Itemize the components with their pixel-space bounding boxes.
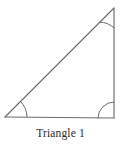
bottom-left-angle-arc [20, 101, 27, 117]
bottom-right-angle-arc [98, 102, 114, 118]
triangle-side-hypotenuse [5, 8, 114, 117]
top-right-angle-arc [100, 22, 114, 28]
figure-caption: Triangle 1 [0, 126, 121, 141]
triangle-figure: Triangle 1 [0, 0, 121, 146]
triangle-drawing [0, 0, 121, 126]
